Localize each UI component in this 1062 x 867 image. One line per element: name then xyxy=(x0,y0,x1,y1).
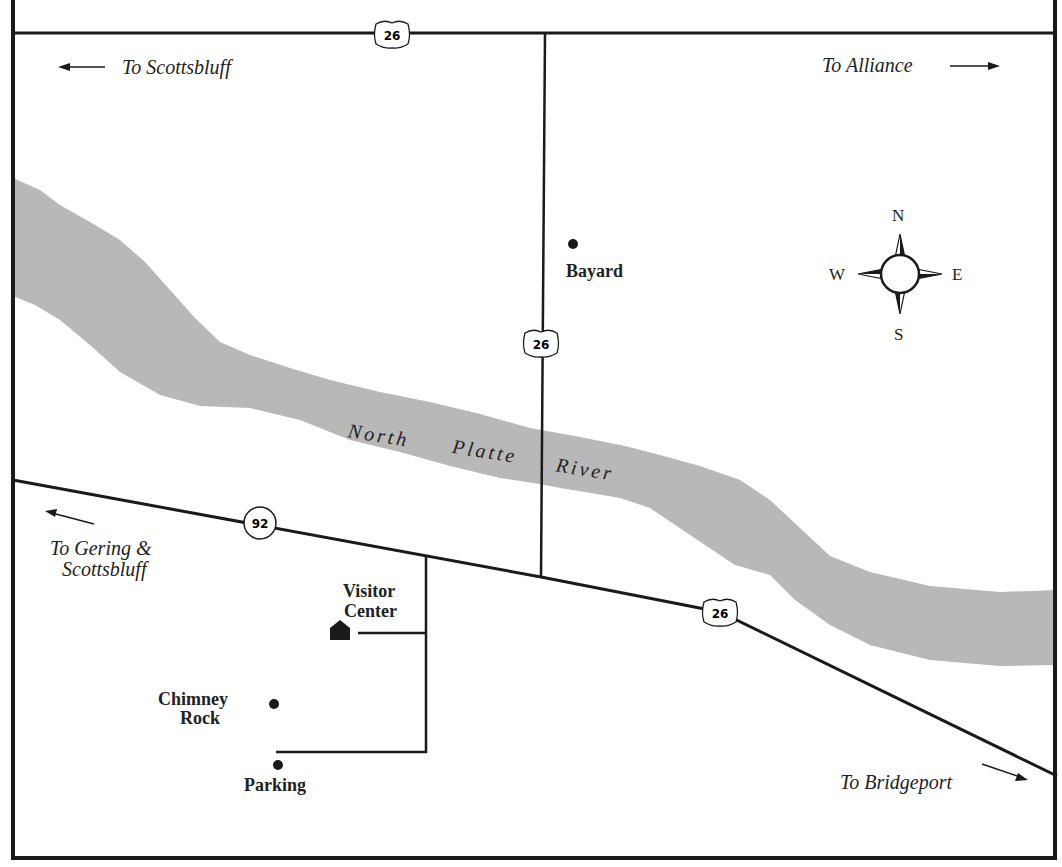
parking-label: Parking xyxy=(244,776,306,795)
chimney-rock-dot xyxy=(269,699,279,709)
us26-shield-top: 26 xyxy=(375,21,410,48)
us26-shield-bottom: 26 xyxy=(703,599,738,626)
arrow-left-gering xyxy=(45,509,94,524)
us26-vertical-road xyxy=(541,33,545,577)
bayard-label: Bayard xyxy=(566,262,623,281)
to-alliance-label: To Alliance xyxy=(822,54,913,77)
compass-w-label: W xyxy=(829,265,845,285)
compass-e-label: E xyxy=(952,265,962,285)
arrow-right-alliance xyxy=(950,62,1000,70)
svg-text:26: 26 xyxy=(533,338,550,352)
to-scottsbluff-label: To Scottsbluff xyxy=(122,56,231,79)
ne92-shield: 92 xyxy=(244,507,276,539)
visitor-center-icon xyxy=(330,620,350,640)
to-gering-label-line2: Scottsbluff xyxy=(62,558,146,581)
map-canvas: 26 26 26 92 To Scottsbluff xyxy=(0,0,1062,867)
svg-text:92: 92 xyxy=(252,517,269,531)
compass-rose-icon xyxy=(858,234,942,314)
visitor-center-label-line1: Visitor xyxy=(343,582,395,601)
to-gering-label-line1: To Gering & xyxy=(50,537,152,560)
chimney-rock-label-line2: Rock xyxy=(180,709,220,728)
bayard-dot xyxy=(568,239,578,249)
to-bridgeport-label: To Bridgeport xyxy=(840,771,952,794)
compass-s-label: S xyxy=(894,325,903,345)
arrow-left-scottsbluff xyxy=(58,63,105,71)
visitor-center-label-line2: Center xyxy=(344,602,397,621)
svg-text:26: 26 xyxy=(384,29,401,43)
parking-dot xyxy=(273,760,283,770)
chimney-rock-label-line1: Chimney xyxy=(158,690,228,709)
svg-text:26: 26 xyxy=(712,607,729,621)
arrow-right-bridgeport xyxy=(982,764,1028,781)
us26-shield-mid: 26 xyxy=(524,330,559,357)
compass-n-label: N xyxy=(892,206,904,226)
